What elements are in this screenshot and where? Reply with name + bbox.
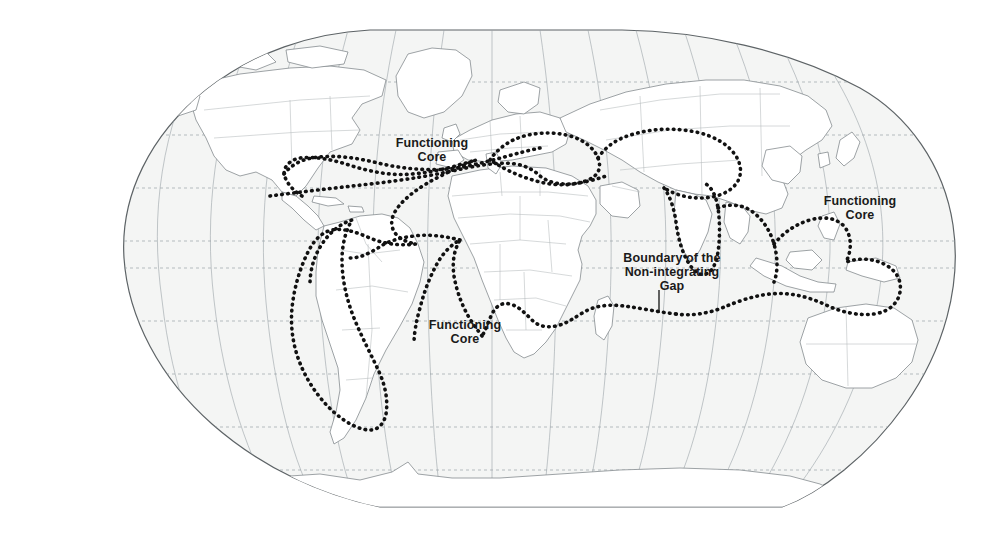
new-zealand: [932, 362, 948, 388]
world-map-figure: Functioning Core Functioning Core Functi…: [0, 0, 989, 533]
world-map-svg: [0, 0, 989, 533]
hispaniola: [348, 206, 364, 212]
